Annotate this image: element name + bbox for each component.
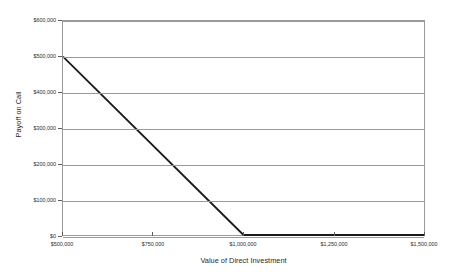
series-payoff-on-call — [63, 21, 424, 235]
y-tick-mark-600000 — [58, 20, 62, 21]
x-tick-label-1250000: $1,250,000 — [299, 241, 369, 248]
y-tick-mark-500000 — [58, 56, 62, 57]
y-tick-label-100000: $100,000 — [2, 197, 56, 203]
y-tick-mark-200000 — [58, 164, 62, 165]
gridline-100000 — [63, 201, 424, 202]
y-tick-mark-300000 — [58, 128, 62, 129]
y-tick-label-0: $0 — [2, 233, 56, 239]
y-tick-label-300000: $300,000 — [2, 125, 56, 131]
x-tick-mark-500000 — [62, 232, 63, 236]
x-tick-label-750000: $750,000 — [118, 241, 188, 248]
payoff-chart: $600,000 $500,000 $400,000 $300,000 $200… — [0, 0, 454, 277]
gridline-600000 — [63, 21, 424, 22]
gridline-300000 — [63, 129, 424, 130]
y-tick-mark-100000 — [58, 200, 62, 201]
x-tick-mark-750000 — [152, 232, 153, 236]
x-tick-label-1500000: $1,500,000 — [389, 241, 454, 248]
y-tick-label-200000: $200,000 — [2, 161, 56, 167]
gridline-200000 — [63, 165, 424, 166]
y-tick-label-500000: $500,000 — [2, 53, 56, 59]
x-tick-label-1000000: $1,000,000 — [208, 241, 278, 248]
y-tick-label-400000: $400,000 — [2, 89, 56, 95]
x-tick-mark-1500000 — [424, 232, 425, 236]
x-tick-mark-1250000 — [334, 232, 335, 236]
gridline-400000 — [63, 93, 424, 94]
y-tick-mark-400000 — [58, 92, 62, 93]
y-axis-title: Payoff on Call — [14, 55, 23, 175]
x-axis-title: Value of Direct Investment — [62, 256, 425, 265]
plot-area — [62, 20, 425, 236]
x-tick-mark-1000000 — [243, 232, 244, 236]
gridline-500000 — [63, 57, 424, 58]
y-tick-mark-0 — [58, 236, 62, 237]
y-tick-label-600000: $600,000 — [2, 17, 56, 23]
gridline-0 — [63, 237, 424, 238]
x-tick-label-500000: $500,000 — [27, 241, 97, 248]
